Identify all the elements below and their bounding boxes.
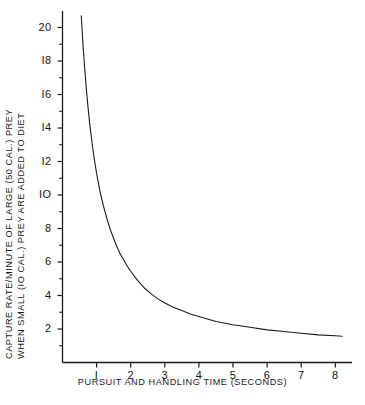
y-axis-title-line-2: WHEN SMALL (IO CAL.) PREY ARE ADDED TO D… <box>16 113 26 359</box>
y-tick-label: 8 <box>32 222 52 234</box>
x-tick-label: 2 <box>123 369 139 381</box>
axis-lines <box>63 11 353 363</box>
x-tick-label: 8 <box>327 369 343 381</box>
y-tick-label: I6 <box>32 88 52 100</box>
y-tick-label: I4 <box>32 121 52 133</box>
plot-area <box>0 0 365 405</box>
y-tick-label: 20 <box>32 21 52 33</box>
y-axis-title-line-1: CAPTURE RATE/MINUTE OF LARGE (50 CAL.) P… <box>4 109 14 359</box>
y-tick-label: 4 <box>32 289 52 301</box>
x-tick-label: 3 <box>157 369 173 381</box>
y-tick-label: 2 <box>32 322 52 334</box>
capture-rate-curve <box>81 16 342 336</box>
y-tick-label: 6 <box>32 255 52 267</box>
figure-panel: CAPTURE RATE/MINUTE OF LARGE (50 CAL.) P… <box>0 0 365 405</box>
y-tick-label: IO <box>32 188 52 200</box>
x-tick-label: 6 <box>259 369 275 381</box>
tick-marks <box>58 28 336 368</box>
x-tick-label: I <box>89 369 105 381</box>
x-tick-label: 7 <box>293 369 309 381</box>
x-tick-label: 5 <box>225 369 241 381</box>
x-tick-label: 4 <box>191 369 207 381</box>
x-axis-title: PURSUIT AND HANDLING TIME (SECONDS) <box>0 377 365 387</box>
y-tick-label: I8 <box>32 54 52 66</box>
data-curve-group <box>81 16 342 336</box>
y-tick-label: I2 <box>32 155 52 167</box>
